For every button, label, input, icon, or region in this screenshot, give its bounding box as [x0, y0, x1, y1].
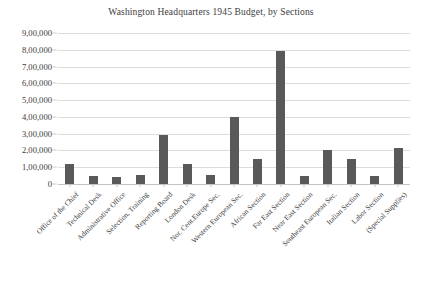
x-tick-mark: [140, 184, 141, 187]
bar-slot: [316, 33, 339, 184]
bar-slot: [387, 33, 410, 184]
bar[interactable]: [136, 175, 145, 184]
x-tick-mark: [398, 184, 399, 187]
bar[interactable]: [230, 117, 239, 184]
bar[interactable]: [89, 176, 98, 184]
bar[interactable]: [323, 150, 332, 184]
x-tick-mark: [93, 184, 94, 187]
y-tick-label: 7,00,000: [22, 62, 52, 72]
y-tick-mark: [52, 116, 57, 117]
bar[interactable]: [347, 159, 356, 184]
x-tick-mark: [374, 184, 375, 187]
x-tick-mark: [257, 184, 258, 187]
y-tick-label: 6,00,000: [22, 78, 52, 88]
x-tick-mark: [116, 184, 117, 187]
y-tick-mark: [52, 49, 57, 50]
bar-slot: [58, 33, 81, 184]
bar[interactable]: [394, 148, 403, 184]
y-tick-mark: [52, 83, 57, 84]
bar-slot: [293, 33, 316, 184]
y-tick-label: 2,00,000: [22, 145, 52, 155]
y-tick-mark: [52, 66, 57, 67]
bar-chart: Washington Headquarters 1945 Budget, by …: [0, 0, 422, 285]
y-tick-label: 9,00,000: [22, 28, 52, 38]
bar-slot: [246, 33, 269, 184]
bar-slot: [269, 33, 292, 184]
y-tick-mark: [52, 133, 57, 134]
bar-slot: [340, 33, 363, 184]
x-tick-mark: [351, 184, 352, 187]
y-tick-mark: [52, 167, 57, 168]
x-tick-mark: [280, 184, 281, 187]
plot-area: [58, 33, 410, 184]
y-tick-mark: [52, 184, 57, 185]
bar[interactable]: [112, 177, 121, 184]
chart-title: Washington Headquarters 1945 Budget, by …: [0, 7, 422, 17]
bar-slot: [222, 33, 245, 184]
bar[interactable]: [370, 176, 379, 184]
x-tick-mark: [163, 184, 164, 187]
bar-slot: [81, 33, 104, 184]
y-tick-mark: [52, 100, 57, 101]
bar-slot: [175, 33, 198, 184]
bar-slot: [128, 33, 151, 184]
y-tick-label: 4,00,000: [22, 112, 52, 122]
y-tick-label: 1,00,000: [22, 162, 52, 172]
y-tick-label: 3,00,000: [22, 129, 52, 139]
bar[interactable]: [300, 176, 309, 184]
bar-slot: [199, 33, 222, 184]
x-tick-mark: [210, 184, 211, 187]
bar[interactable]: [253, 159, 262, 184]
bar-slot: [363, 33, 386, 184]
bar[interactable]: [159, 135, 168, 184]
bar[interactable]: [206, 175, 215, 184]
y-tick-mark: [52, 33, 57, 34]
x-tick-mark: [327, 184, 328, 187]
y-tick-mark: [52, 150, 57, 151]
x-tick-mark: [304, 184, 305, 187]
bar[interactable]: [65, 164, 74, 184]
y-axis: 9,00,0008,00,0007,00,0006,00,0005,00,000…: [0, 33, 52, 184]
x-tick-mark: [69, 184, 70, 187]
bars-group: [58, 33, 410, 184]
x-tick-mark: [234, 184, 235, 187]
bar-slot: [105, 33, 128, 184]
bar[interactable]: [276, 51, 285, 184]
y-tick-label: 5,00,000: [22, 95, 52, 105]
bar[interactable]: [183, 164, 192, 184]
bar-slot: [152, 33, 175, 184]
x-axis: Office of the ChiefTechnical DeskAdminis…: [58, 184, 410, 285]
x-tick-mark: [187, 184, 188, 187]
y-tick-label: 8,00,000: [22, 45, 52, 55]
